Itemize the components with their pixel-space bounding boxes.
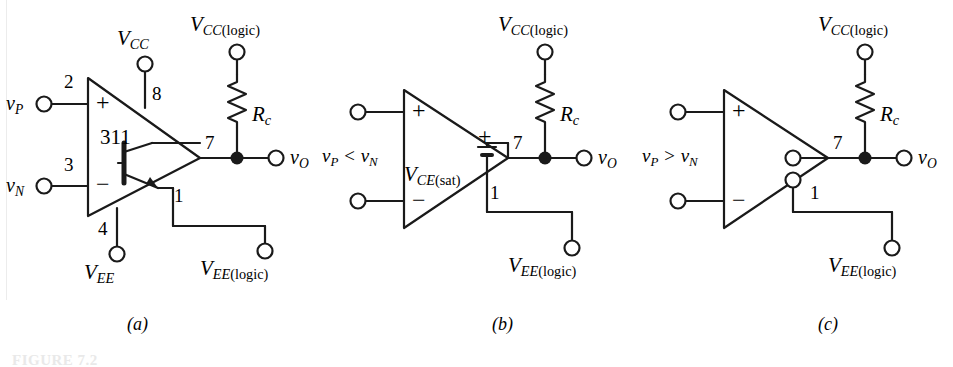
terminal-vee-a [110, 247, 125, 262]
open-terminal-emitter-c [786, 173, 801, 188]
input-plus-c: + [732, 98, 746, 122]
terminal-veelogic-a [258, 244, 273, 259]
label-vo-a: vO [290, 147, 309, 170]
label-vo-b: vO [598, 147, 617, 170]
battery-plus-sign-b: + [478, 124, 492, 148]
panel-c-graphics [671, 45, 912, 256]
input-minus-a: − [96, 172, 110, 196]
terminal-vo-c [897, 151, 912, 166]
label-vcclogic-a: VCC(logic) [190, 14, 260, 37]
pin-label-7-c: 7 [833, 133, 843, 152]
pin-label-7-b: 7 [513, 133, 523, 152]
label-rc-c: Rc [880, 104, 899, 127]
label-veelogic-a: VEE(logic) [200, 258, 268, 281]
device-label-311: 311 [100, 127, 131, 148]
label-veelogic-c: VEE(logic) [828, 255, 896, 278]
label-vcesat-b: VCE(sat) [404, 164, 460, 187]
terminal-vp-c [671, 105, 686, 120]
figure-number-tag: FIGURE 7.2 [12, 353, 98, 367]
label-vo-c: vO [918, 147, 937, 170]
open-terminal-collector-c [786, 151, 801, 166]
input-minus-b: − [412, 188, 426, 212]
label-rc-a: Rc [252, 104, 271, 127]
pin-label-7-a: 7 [205, 133, 215, 152]
label-vcclogic-c: VCC(logic) [818, 14, 888, 37]
panel-a-graphics [37, 45, 284, 262]
terminal-vn-b [351, 194, 366, 209]
terminal-vn-c [671, 194, 686, 209]
pin-label-1-b: 1 [490, 183, 500, 202]
caption-b: (b) [492, 315, 513, 333]
label-vn-a: vN [6, 175, 24, 198]
input-minus-c: − [732, 188, 746, 212]
resistor-rc-c [856, 74, 874, 128]
terminal-vo-a [269, 151, 284, 166]
pin-label-2-a: 2 [64, 72, 74, 91]
input-plus-a: + [96, 90, 110, 114]
terminal-vp-b [351, 105, 366, 120]
input-plus-b: + [412, 98, 426, 122]
label-vcc-a: VCC [117, 28, 149, 51]
label-vp-a: vP [6, 93, 23, 116]
terminal-vn-a [37, 179, 52, 194]
condition-label-b: vP < vN [322, 146, 378, 169]
terminal-vo-b [577, 151, 592, 166]
label-vcclogic-b: VCC(logic) [498, 14, 568, 37]
pin-label-4-a: 4 [98, 219, 108, 238]
panel-b-graphics [351, 45, 592, 256]
label-vee-a: VEE [84, 262, 114, 285]
condition-label-c: vP > vN [642, 146, 698, 169]
terminal-veelogic-c [885, 241, 900, 256]
terminal-vcclogic-b [538, 45, 553, 60]
terminal-vcclogic-a [230, 45, 245, 60]
resistor-rc-a [228, 74, 246, 128]
pin-label-8-a: 8 [152, 84, 162, 103]
caption-a: (a) [127, 315, 148, 333]
terminal-vcclogic-c [858, 45, 873, 60]
terminal-veelogic-b [565, 241, 580, 256]
pin-label-3-a: 3 [64, 155, 74, 174]
caption-c: (c) [818, 315, 838, 333]
terminal-vcc-a [138, 57, 153, 72]
label-veelogic-b: VEE(logic) [508, 255, 576, 278]
resistor-rc-b [536, 74, 554, 128]
pin-label-1-c: 1 [810, 183, 820, 202]
terminal-vp-a [37, 97, 52, 112]
figure-root: vP vN 2 3 + − 311 VCC 8 VEE 4 VCC(logic)… [0, 0, 953, 367]
label-rc-b: Rc [560, 104, 579, 127]
pin-label-1-a: 1 [174, 186, 184, 205]
